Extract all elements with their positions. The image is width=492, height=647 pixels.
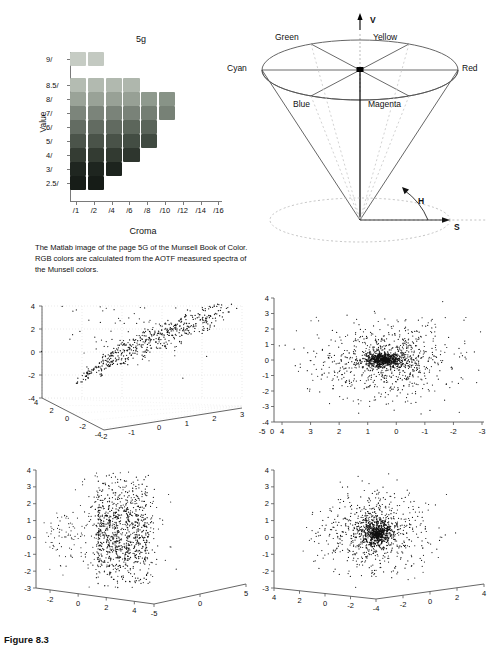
data-point — [106, 475, 107, 476]
data-point — [129, 344, 130, 345]
data-point — [83, 373, 84, 374]
data-point — [206, 316, 207, 317]
data-point — [107, 365, 108, 366]
data-point — [431, 320, 432, 321]
data-point — [391, 510, 392, 511]
data-point — [135, 525, 136, 526]
data-point — [342, 366, 343, 367]
data-point — [397, 556, 398, 557]
data-point — [106, 564, 107, 565]
data-point — [429, 410, 430, 411]
data-point — [203, 322, 204, 323]
data-point — [99, 555, 100, 556]
data-point — [382, 487, 383, 488]
data-point — [114, 532, 115, 533]
data-point — [388, 555, 389, 556]
data-point — [103, 526, 104, 527]
data-point — [64, 536, 65, 537]
data-point — [130, 512, 131, 513]
data-point — [405, 354, 406, 355]
axis-tick-label: 0 — [428, 597, 432, 606]
data-point — [406, 345, 407, 346]
data-point — [368, 502, 369, 503]
data-point — [222, 316, 223, 317]
data-point — [414, 382, 415, 383]
data-point — [388, 538, 389, 539]
data-point — [372, 524, 373, 525]
data-point — [153, 501, 154, 502]
data-point — [145, 476, 146, 477]
data-point — [97, 559, 98, 560]
data-point — [135, 339, 136, 340]
axis-tick-label: -3 — [24, 584, 31, 593]
data-point — [329, 367, 330, 368]
data-point — [383, 497, 384, 498]
data-point — [400, 364, 401, 365]
data-point — [334, 355, 335, 356]
data-point — [352, 525, 353, 526]
data-point — [100, 520, 101, 521]
data-point — [381, 539, 383, 541]
data-point — [101, 524, 102, 525]
data-point — [384, 367, 385, 368]
data-point — [189, 332, 190, 333]
data-point — [124, 323, 125, 324]
data-point — [400, 528, 401, 529]
data-point — [379, 519, 380, 520]
munsell-swatch — [141, 106, 157, 120]
data-point — [104, 526, 105, 527]
data-point — [421, 532, 422, 533]
data-point — [164, 339, 165, 340]
data-point — [66, 516, 67, 517]
data-point — [120, 567, 121, 568]
data-point — [419, 370, 420, 371]
data-point — [400, 525, 401, 526]
data-point — [123, 504, 124, 505]
data-point — [126, 525, 127, 526]
data-point — [358, 403, 359, 404]
munsell-swatch — [88, 52, 104, 66]
data-point — [426, 531, 427, 532]
munsell-x-tick-mark — [112, 202, 113, 205]
data-point — [143, 540, 144, 541]
data-point — [446, 347, 447, 348]
data-point — [110, 572, 111, 573]
data-point — [361, 533, 362, 534]
data-point — [361, 531, 362, 532]
data-point — [446, 383, 447, 384]
data-point — [134, 501, 135, 502]
data-point — [112, 551, 113, 552]
data-point — [108, 357, 109, 358]
data-point — [380, 567, 381, 568]
munsell-x-tick: /8 — [144, 206, 150, 215]
data-point — [350, 506, 351, 507]
data-point — [378, 360, 379, 361]
data-point — [207, 323, 208, 324]
data-point — [452, 368, 453, 369]
data-point — [52, 548, 53, 549]
data-point — [124, 556, 125, 557]
data-point — [121, 528, 122, 529]
data-point — [369, 370, 370, 371]
data-point — [221, 304, 222, 305]
data-point — [125, 534, 126, 535]
data-point — [69, 339, 70, 340]
data-point — [371, 537, 373, 539]
data-point — [402, 354, 403, 355]
data-point — [389, 527, 390, 528]
data-point — [398, 529, 399, 530]
data-point — [101, 565, 102, 566]
data-point — [430, 331, 431, 332]
data-point — [358, 324, 359, 325]
data-point — [366, 547, 367, 548]
data-point — [126, 543, 127, 544]
data-point — [136, 580, 137, 581]
data-point — [383, 362, 384, 363]
data-point — [158, 339, 159, 340]
data-point — [403, 540, 404, 541]
data-point — [423, 555, 424, 556]
data-point — [408, 351, 409, 352]
data-point — [74, 536, 75, 537]
data-point — [372, 370, 373, 371]
data-point — [184, 332, 185, 333]
